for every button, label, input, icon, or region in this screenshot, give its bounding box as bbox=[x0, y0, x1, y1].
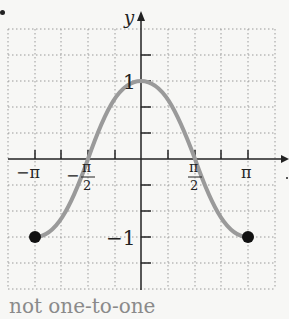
tick-label-neg-half-pi-den: 2 bbox=[83, 178, 91, 193]
tick-label-neg-half-pi-num: π bbox=[82, 159, 91, 175]
left-endpoint-dot bbox=[29, 231, 41, 243]
tick-label-pos-pi: π bbox=[241, 163, 252, 182]
y-axis-arrow-icon bbox=[137, 11, 145, 21]
axes bbox=[8, 18, 285, 290]
y-axis-label: y bbox=[123, 7, 135, 28]
tick-label-half-pi-den: 2 bbox=[190, 178, 198, 193]
cosine-graph: y 1 −1 −π π − π 2 π 2 bbox=[0, 0, 289, 319]
caption: not one-to-one bbox=[9, 294, 155, 318]
tick-label-neg-half-pi-minus: − bbox=[66, 166, 79, 185]
tick-label-neg-one: −1 bbox=[106, 226, 135, 250]
tick-label-one: 1 bbox=[123, 70, 136, 94]
tick-label-half-pi-num: π bbox=[189, 159, 198, 175]
x-axis-arrow-icon bbox=[281, 155, 289, 163]
x-axis-dot bbox=[286, 177, 288, 179]
right-endpoint-dot bbox=[242, 231, 254, 243]
tick-label-neg-pi: −π bbox=[16, 163, 40, 182]
